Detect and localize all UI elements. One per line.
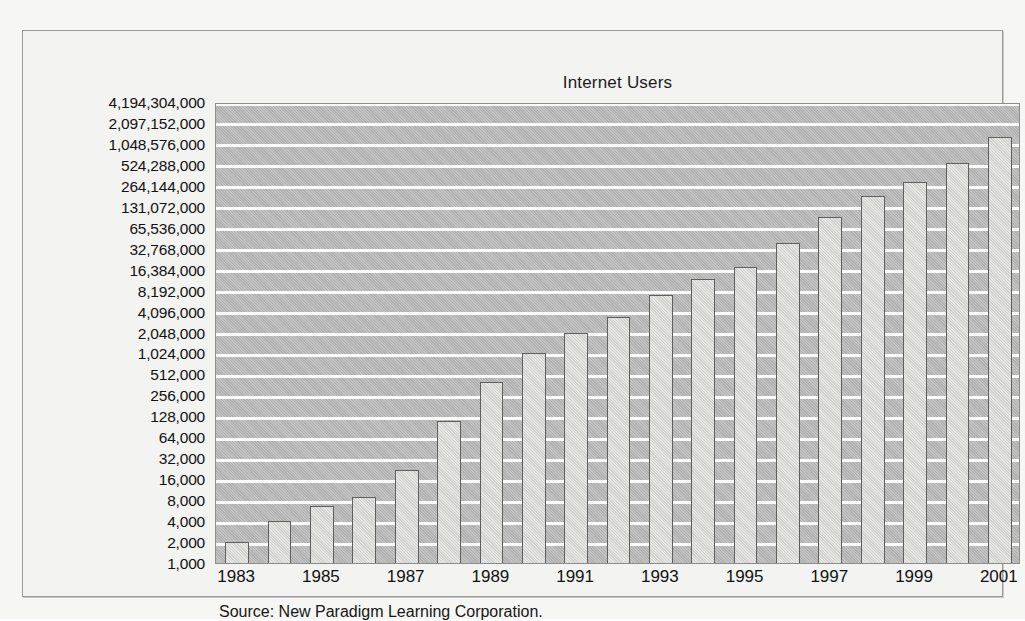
bar <box>734 267 758 563</box>
x-axis-tick-label: 1987 <box>387 568 425 585</box>
y-axis-tick-label: 524,288,000 <box>121 158 205 174</box>
bar <box>310 506 334 563</box>
bar <box>861 196 885 563</box>
bar <box>480 382 504 563</box>
y-axis-tick-label: 16,000 <box>159 472 205 488</box>
gridline <box>216 270 1019 273</box>
y-axis-tick-label: 4,194,304,000 <box>108 95 205 111</box>
gridline <box>216 312 1019 315</box>
y-axis-tick-label: 2,000 <box>167 535 205 551</box>
x-axis-tick-label: 1997 <box>810 568 848 585</box>
bar <box>268 521 292 563</box>
bar <box>225 542 249 563</box>
x-axis-tick-label: 1995 <box>726 568 764 585</box>
source-note: Source: New Paradigm Learning Corporatio… <box>219 603 543 621</box>
y-axis-tick-label: 2,048,000 <box>138 326 205 342</box>
y-axis-tick-label: 4,000 <box>167 514 205 530</box>
bar <box>437 421 461 563</box>
y-axis-tick-label: 1,024,000 <box>138 347 205 363</box>
figure-frame: Internet Users 4,194,304,0002,097,152,00… <box>22 30 1003 597</box>
gridline <box>216 249 1019 252</box>
gridline <box>216 165 1019 168</box>
bar <box>352 497 376 563</box>
gridline <box>216 564 1019 565</box>
y-axis-tick-label: 64,000 <box>159 431 205 447</box>
bar <box>988 137 1012 563</box>
y-axis-tick-label: 16,384,000 <box>129 263 205 279</box>
x-axis-tick-label: 1989 <box>471 568 509 585</box>
x-axis-tick-label: 1993 <box>641 568 679 585</box>
bar <box>607 317 631 563</box>
y-axis-tick-label: 4,096,000 <box>138 305 205 321</box>
y-axis-tick-label: 8,000 <box>167 493 205 509</box>
y-axis-tick-label: 32,768,000 <box>129 242 205 258</box>
bar <box>395 470 419 563</box>
y-axis-tick-label: 32,000 <box>159 451 205 467</box>
x-axis-tick-label: 1983 <box>217 568 255 585</box>
bar <box>818 217 842 563</box>
y-axis: 4,194,304,0002,097,152,0001,048,576,0005… <box>45 103 211 564</box>
plot-area <box>215 103 1020 564</box>
bar <box>946 163 970 563</box>
y-axis-tick-label: 2,097,152,000 <box>108 116 205 132</box>
x-axis-tick-label: 1991 <box>556 568 594 585</box>
bar <box>649 295 673 563</box>
y-axis-tick-label: 1,000 <box>167 556 205 572</box>
y-axis-tick-label: 264,144,000 <box>121 179 205 195</box>
gridline <box>216 103 1019 106</box>
bar <box>564 333 588 564</box>
y-axis-tick-label: 8,192,000 <box>138 284 205 300</box>
gridline <box>216 207 1019 210</box>
gridline <box>216 123 1019 126</box>
y-axis-tick-label: 512,000 <box>150 368 205 384</box>
bar <box>776 243 800 563</box>
page-title: Internet Users <box>215 73 1020 93</box>
gridline <box>216 228 1019 231</box>
bar <box>522 353 546 563</box>
x-axis-tick-label: 1999 <box>895 568 933 585</box>
gridline <box>216 144 1019 147</box>
y-axis-tick-label: 131,072,000 <box>121 200 205 216</box>
x-axis: 1983198519871989199119931995199719992001 <box>215 568 1020 594</box>
y-axis-tick-label: 128,000 <box>150 410 205 426</box>
bar <box>691 279 715 563</box>
gridline <box>216 186 1019 189</box>
y-axis-tick-label: 65,536,000 <box>129 221 205 237</box>
x-axis-tick-label: 1985 <box>302 568 340 585</box>
y-axis-tick-label: 256,000 <box>150 389 205 405</box>
y-axis-tick-label: 1,048,576,000 <box>108 137 205 153</box>
gridline <box>216 291 1019 294</box>
bar <box>903 182 927 563</box>
x-axis-tick-label: 2001 <box>980 568 1018 585</box>
